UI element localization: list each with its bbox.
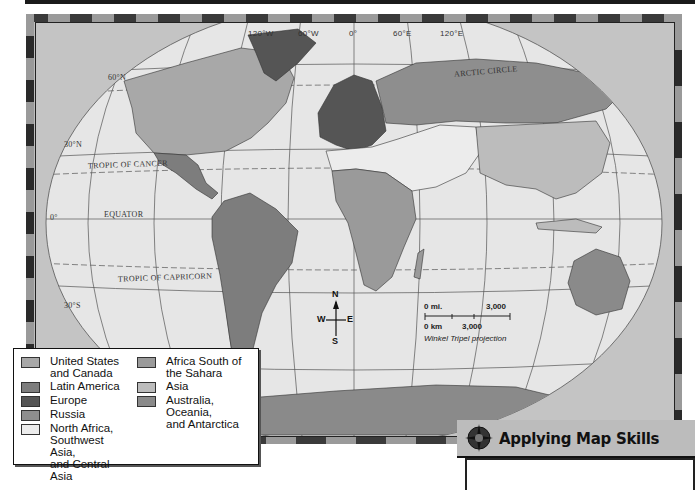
legend-swatch (21, 357, 40, 368)
lat-label-30n: 30°N (64, 140, 82, 149)
applying-map-skills-content (465, 458, 695, 490)
legend-swatch (137, 357, 156, 368)
legend-label: North Africa,Southwest Asia,and Central … (50, 422, 131, 482)
scale-mi-end: 3,000 (486, 302, 506, 311)
compass-s: S (332, 336, 338, 346)
compass-rose: N S E W (318, 292, 358, 348)
legend-label: Latin America (50, 380, 120, 392)
lon-label-60w: 60°W (298, 29, 319, 38)
legend-swatch (21, 382, 40, 393)
lon-label-60e: 60°E (393, 29, 412, 38)
compass-rose-icon (465, 424, 493, 452)
legend-item-north-africa-sw-asia: North Africa,Southwest Asia,and Central … (21, 422, 131, 482)
projection-label: Winkel Tripel projection (424, 334, 506, 343)
legend-label: Russia (50, 408, 85, 420)
frame-border-right (674, 14, 682, 444)
compass-w: W (317, 314, 326, 324)
compass-n: N (332, 289, 339, 299)
legend-swatch (21, 424, 40, 435)
scale-ruler (424, 313, 514, 321)
legend-swatch (137, 396, 156, 407)
legend-item-africa-south: Africa South ofthe Sahara (137, 355, 257, 379)
legend-item-asia: Asia (137, 380, 257, 393)
legend-swatch (137, 382, 156, 393)
legend-swatch (21, 396, 40, 407)
legend-swatch (21, 410, 40, 421)
applying-map-skills-title: Applying Map Skills (499, 430, 659, 448)
legend-item-europe: Europe (21, 394, 131, 407)
lat-label-0: 0° (50, 213, 58, 222)
lat-label-30s: 30°S (64, 301, 81, 310)
legend-item-australia-oceania: Australia, Oceania,and Antarctica (137, 394, 257, 430)
lon-label-120w: 120°W (248, 29, 274, 38)
map-legend: United Statesand Canada Latin America Eu… (13, 348, 259, 465)
legend-column-right: Africa South ofthe Sahara Asia Australia… (137, 355, 257, 431)
lon-label-0: 0° (349, 29, 357, 38)
legend-label: United Statesand Canada (50, 355, 119, 379)
legend-label: Africa South ofthe Sahara (166, 355, 241, 379)
applying-map-skills-panel: Applying Map Skills (457, 420, 695, 481)
equator-label: EQUATOR (104, 210, 143, 219)
frame-border-top (26, 14, 682, 22)
legend-column-left: United Statesand Canada Latin America Eu… (21, 355, 131, 483)
scale-km-end: 3,000 (462, 322, 482, 331)
legend-label: Europe (50, 394, 87, 406)
legend-item-us-canada: United Statesand Canada (21, 355, 131, 379)
lon-label-120e: 120°E (440, 29, 463, 38)
top-rule (25, 0, 695, 4)
legend-label: Asia (166, 380, 188, 392)
legend-label: Australia, Oceania,and Antarctica (166, 394, 257, 430)
compass-e: E (347, 314, 353, 324)
lat-label-60n: 60°N (108, 73, 126, 82)
region-australia (568, 249, 630, 315)
scale-km-start: 0 km (424, 322, 442, 331)
legend-item-latin-america: Latin America (21, 380, 131, 393)
legend-item-russia: Russia (21, 408, 131, 421)
scale-mi-start: 0 mi. (424, 302, 442, 311)
